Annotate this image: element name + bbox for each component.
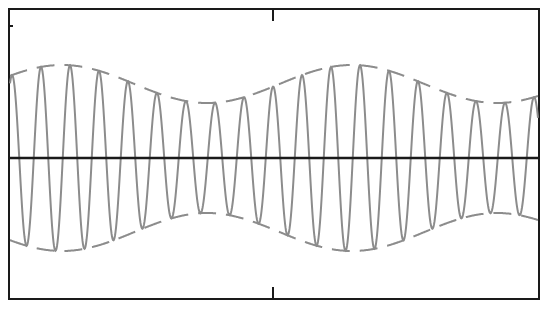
plot-frame: [9, 9, 539, 299]
waveform-plot: [0, 0, 542, 315]
upper-envelope: [10, 65, 538, 103]
